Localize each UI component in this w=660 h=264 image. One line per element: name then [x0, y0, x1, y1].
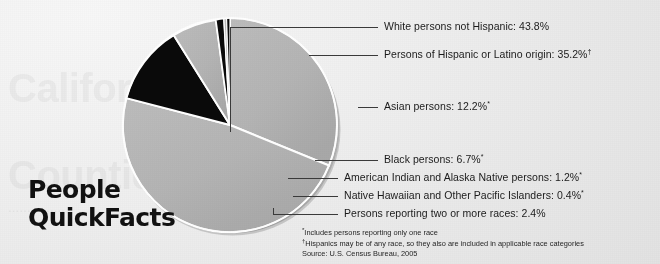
footnote-2: †Hispanics may be of any race, so they a…: [302, 239, 584, 250]
label-hispanic-latino: Persons of Hispanic or Latino origin: 35…: [384, 48, 591, 60]
label-american-indian-text: American Indian and Alaska Native person…: [344, 171, 579, 183]
label-black-mark: *: [481, 153, 484, 160]
label-asian-text: Asian persons: 12.2%: [384, 100, 487, 112]
label-hispanic-latino-mark: †: [588, 48, 592, 55]
title-line-1: People: [28, 176, 175, 204]
label-hispanic-latino-text: Persons of Hispanic or Latino origin: 35…: [384, 48, 588, 60]
label-native-hawaiian: Native Hawaiian and Other Pacific Island…: [344, 189, 584, 201]
label-white-not-hispanic: White persons not Hispanic: 43.8%: [384, 20, 549, 32]
footnote-source: Source: U.S. Census Bureau, 2005: [302, 249, 584, 260]
label-black-text: Black persons: 6.7%: [384, 153, 481, 165]
title-line-2: QuickFacts: [28, 204, 175, 232]
label-native-hawaiian-mark: *: [581, 189, 584, 196]
label-asian-mark: *: [487, 100, 490, 107]
label-american-indian-mark: *: [579, 171, 582, 178]
label-two-or-more-races-text: Persons reporting two or more races: 2.4…: [344, 207, 546, 219]
page-title: People QuickFacts: [28, 176, 175, 233]
footnote-1: *Includes persons reporting only one rac…: [302, 228, 584, 239]
label-american-indian: American Indian and Alaska Native person…: [344, 171, 582, 183]
label-asian: Asian persons: 12.2%*: [384, 100, 490, 112]
label-white-not-hispanic-text: White persons not Hispanic: 43.8%: [384, 20, 549, 32]
footnote-2-text: Hispanics may be of any race, so they al…: [305, 239, 584, 248]
footnotes: *Includes persons reporting only one rac…: [302, 228, 584, 260]
label-native-hawaiian-text: Native Hawaiian and Other Pacific Island…: [344, 189, 581, 201]
label-black: Black persons: 6.7%*: [384, 153, 483, 165]
label-two-or-more-races: Persons reporting two or more races: 2.4…: [344, 207, 546, 219]
footnote-1-text: Includes persons reporting only one race: [304, 228, 438, 237]
people-quickfacts-graphic: California Counties ...............: [0, 0, 660, 264]
